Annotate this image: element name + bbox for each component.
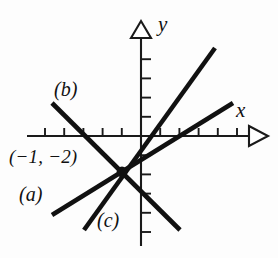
plotted-lines-group [52,48,233,230]
y-axis-label: y [158,14,167,35]
coordinate-graph [0,0,278,258]
intersection-point-label: (−1, −2) [9,147,77,166]
line-b-label: (b) [54,79,77,99]
line-a-label: (a) [19,184,42,204]
x-axis-arrowhead-icon [249,126,268,146]
x-axis-label: x [236,100,245,121]
line-a [52,103,233,215]
y-axis-group [131,21,151,246]
y-axis-arrowhead-icon [131,21,151,38]
line-c-label: (c) [97,210,119,230]
figure-canvas: y x (b) (a) (c) (−1, −2) [0,0,278,258]
intersection-point-marker [117,167,128,178]
